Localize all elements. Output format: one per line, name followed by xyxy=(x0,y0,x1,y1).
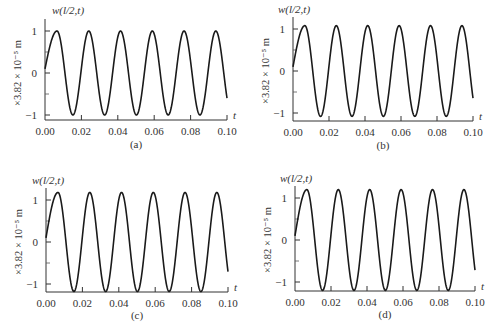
chart-title: w(l/2,t) xyxy=(32,174,64,187)
x-tick-label: 0.08 xyxy=(182,297,202,309)
x-axis-label: t xyxy=(233,109,237,121)
y-tick-label: 1 xyxy=(282,192,288,204)
x-tick-label: 0.00 xyxy=(35,125,55,137)
y-tick-label: 0 xyxy=(33,236,39,248)
y-tick-label: −1 xyxy=(25,109,37,121)
x-tick-label: 0.00 xyxy=(285,296,305,308)
data-line xyxy=(46,192,228,291)
figure: 10−10.000.020.040.060.080.10tw(l/2,t)×3.… xyxy=(0,0,491,333)
y-tick-label: −1 xyxy=(275,276,287,288)
x-tick-label: 0.04 xyxy=(109,297,129,309)
y-tick-label: −1 xyxy=(273,107,285,119)
chart-panel-a: 10−10.000.020.040.060.080.10tw(l/2,t)×3.… xyxy=(12,4,237,151)
data-line xyxy=(45,31,227,115)
x-tick-label: 0.06 xyxy=(393,296,413,308)
x-tick-label: 0.06 xyxy=(146,297,166,309)
x-tick-label: 0.00 xyxy=(36,297,56,309)
y-tick-label: 1 xyxy=(32,25,38,37)
y-tick-label: 0 xyxy=(282,234,288,246)
chart-panel-c: 10−10.000.020.040.060.080.10tw(l/2,t)×3.… xyxy=(13,174,238,322)
data-line xyxy=(295,190,475,291)
x-tick-label: 0.04 xyxy=(355,126,375,138)
x-axis-label: t xyxy=(479,110,483,122)
x-axis-label: t xyxy=(481,280,485,292)
data-line xyxy=(293,26,473,117)
panel-caption: (c) xyxy=(131,309,144,322)
x-axis-label: t xyxy=(234,281,238,293)
x-tick-label: 0.06 xyxy=(391,126,411,138)
panel-caption: (b) xyxy=(377,139,390,152)
x-tick-label: 0.04 xyxy=(357,296,377,308)
x-tick-label: 0.10 xyxy=(463,126,483,138)
x-tick-label: 0.08 xyxy=(429,296,449,308)
x-tick-label: 0.10 xyxy=(465,296,485,308)
x-tick-label: 0.10 xyxy=(218,297,238,309)
x-tick-label: 0.10 xyxy=(217,125,237,137)
x-tick-label: 0.08 xyxy=(181,125,201,137)
panel-caption: (d) xyxy=(379,308,392,321)
x-tick-label: 0.02 xyxy=(319,126,338,138)
y-tick-label: −1 xyxy=(26,278,38,290)
chart-title: w(l/2,t) xyxy=(278,3,310,16)
y-axis-label: ×3.82 × 10⁻⁵ m xyxy=(13,209,24,275)
x-tick-label: 0.04 xyxy=(108,125,128,137)
x-tick-label: 0.08 xyxy=(427,126,447,138)
y-tick-label: 1 xyxy=(280,23,286,35)
y-axis-label: ×3.82 × 10⁻⁵ m xyxy=(260,38,271,104)
x-tick-label: 0.02 xyxy=(321,296,340,308)
y-tick-label: 0 xyxy=(280,65,286,77)
x-tick-label: 0.00 xyxy=(283,126,303,138)
chart-title: w(l/2,t) xyxy=(280,172,312,185)
y-tick-label: 1 xyxy=(33,194,39,206)
x-tick-label: 0.02 xyxy=(72,125,91,137)
chart-panel-d: 10−10.000.020.040.060.080.10tw(l/2,t)×3.… xyxy=(262,172,485,321)
chart-title: w(l/2,t) xyxy=(52,4,84,17)
x-tick-label: 0.06 xyxy=(145,125,165,137)
x-tick-label: 0.02 xyxy=(73,297,92,309)
chart-panel-b: 10−10.000.020.040.060.080.10tw(l/2,t)×3.… xyxy=(260,3,483,152)
panel-caption: (a) xyxy=(130,138,143,151)
y-axis-label: ×3.82 × 10⁻⁵ m xyxy=(262,207,273,273)
y-axis-label: ×3.82 × 10⁻⁵ m xyxy=(12,40,23,106)
y-tick-label: 0 xyxy=(32,67,38,79)
